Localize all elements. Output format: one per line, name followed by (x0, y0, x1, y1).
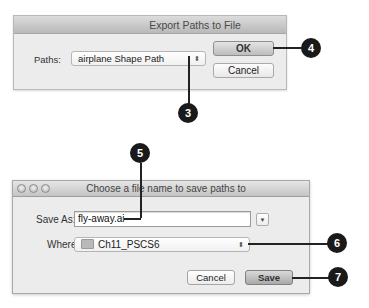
cancel-button[interactable]: Cancel (213, 63, 274, 78)
callout-badge-5: 5 (130, 143, 150, 163)
disclosure-triangle-icon: ▼ (260, 217, 266, 223)
callout-badge-7: 7 (328, 267, 348, 287)
callout-badge-6: 6 (327, 233, 347, 253)
ok-button[interactable]: OK (213, 41, 274, 56)
paths-label: Paths: (34, 54, 61, 65)
popup-arrows-icon: ⬍ (194, 52, 200, 65)
callout-badge-4: 4 (301, 38, 321, 58)
callout-line-4 (273, 47, 303, 49)
callout-line-3 (188, 56, 190, 104)
callout-line-5 (140, 163, 142, 218)
where-popup[interactable]: Ch11_PSCS6 ⬍ (74, 237, 250, 252)
callout-badge-3: 3 (178, 103, 198, 123)
callout-line-5-tail (124, 218, 141, 220)
callout-line-6 (248, 243, 328, 245)
popup-arrows-icon: ⬍ (238, 238, 244, 251)
callout-line-7 (292, 277, 329, 279)
expand-dialog-button[interactable]: ▼ (256, 213, 269, 226)
save-paths-dialog: Choose a file name to save paths to Save… (12, 180, 310, 294)
save-as-label: Save As: (36, 214, 75, 225)
paths-popup[interactable]: airplane Shape Path ⬍ (71, 51, 206, 66)
folder-icon (81, 239, 94, 249)
save-dialog-title: Choose a file name to save paths to (86, 183, 246, 194)
minimize-window-icon[interactable] (29, 184, 38, 193)
export-dialog-title: Export Paths to File (14, 16, 286, 34)
close-window-icon[interactable] (17, 184, 26, 193)
paths-popup-value: airplane Shape Path (78, 53, 164, 64)
where-popup-value: Ch11_PSCS6 (98, 239, 160, 250)
export-paths-dialog: Export Paths to File Paths: airplane Sha… (13, 15, 287, 90)
save-as-input[interactable]: fly-away.ai (74, 211, 251, 227)
save-button[interactable]: Save (245, 270, 293, 285)
save-dialog-titlebar: Choose a file name to save paths to (13, 181, 309, 197)
cancel-save-button[interactable]: Cancel (187, 270, 235, 285)
zoom-window-icon[interactable] (41, 184, 50, 193)
